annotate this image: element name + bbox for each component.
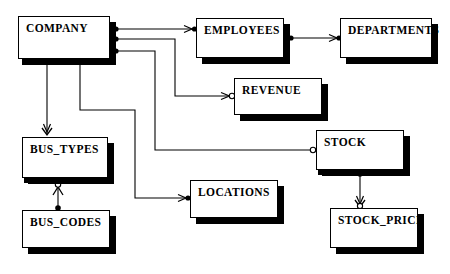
- entity-bus-codes[interactable]: BUS_CODES: [22, 210, 110, 248]
- connector-employees-departments: [284, 24, 342, 54]
- er-diagram-canvas: COMPANY EMPLOYEES DEPARTMENTS REVENUE ST…: [0, 0, 450, 274]
- connector-company-employees: [113, 26, 197, 33]
- entity-stock[interactable]: STOCK: [316, 130, 404, 170]
- entity-locations[interactable]: LOCATIONS: [190, 180, 278, 218]
- entity-employees-label: EMPLOYEES: [204, 24, 280, 36]
- entity-stock-price[interactable]: STOCK_PRICE: [330, 208, 418, 248]
- connector-company-bustypes: [42, 59, 52, 135]
- entity-departments-label: DEPARTMENTS: [348, 24, 439, 36]
- entity-employees[interactable]: EMPLOYEES: [196, 18, 284, 58]
- entity-bus-types-label: BUS_TYPES: [30, 143, 99, 155]
- entity-bus-codes-label: BUS_CODES: [30, 216, 101, 228]
- entity-stock-label: STOCK: [324, 136, 366, 148]
- entity-revenue[interactable]: REVENUE: [234, 78, 322, 115]
- entity-bus-types[interactable]: BUS_TYPES: [22, 137, 108, 178]
- entity-company-label: COMPANY: [26, 22, 88, 34]
- entity-revenue-label: REVENUE: [242, 84, 301, 96]
- entity-departments[interactable]: DEPARTMENTS: [340, 18, 432, 58]
- entity-company[interactable]: COMPANY: [18, 16, 110, 59]
- entity-locations-label: LOCATIONS: [198, 186, 270, 198]
- entity-stock-price-label: STOCK_PRICE: [338, 214, 424, 226]
